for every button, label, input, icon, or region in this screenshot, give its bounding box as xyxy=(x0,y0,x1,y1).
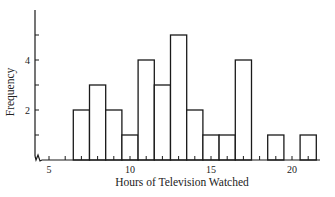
histogram-bar xyxy=(235,60,251,160)
y-tick-label: 4 xyxy=(25,55,30,66)
histogram-bar xyxy=(154,85,170,160)
y-tick-label: 2 xyxy=(25,105,30,116)
x-tick-label: 10 xyxy=(125,164,135,175)
histogram-chart: 24 5101520 Hours of Television Watched F… xyxy=(0,0,335,197)
x-axis-label: Hours of Television Watched xyxy=(115,176,249,188)
x-tick-label: 15 xyxy=(206,164,216,175)
x-tick-label: 5 xyxy=(47,164,52,175)
histogram-bar xyxy=(187,110,203,160)
histogram-bar xyxy=(90,85,106,160)
histogram-bar xyxy=(138,60,154,160)
histogram-bar xyxy=(106,110,122,160)
y-axis-label: Frequency xyxy=(4,67,17,116)
histogram-bar xyxy=(73,110,89,160)
histogram-bar xyxy=(171,35,187,160)
y-axis: 24 xyxy=(25,10,39,156)
x-tick-label: 20 xyxy=(287,164,297,175)
histogram-bars xyxy=(73,35,316,160)
